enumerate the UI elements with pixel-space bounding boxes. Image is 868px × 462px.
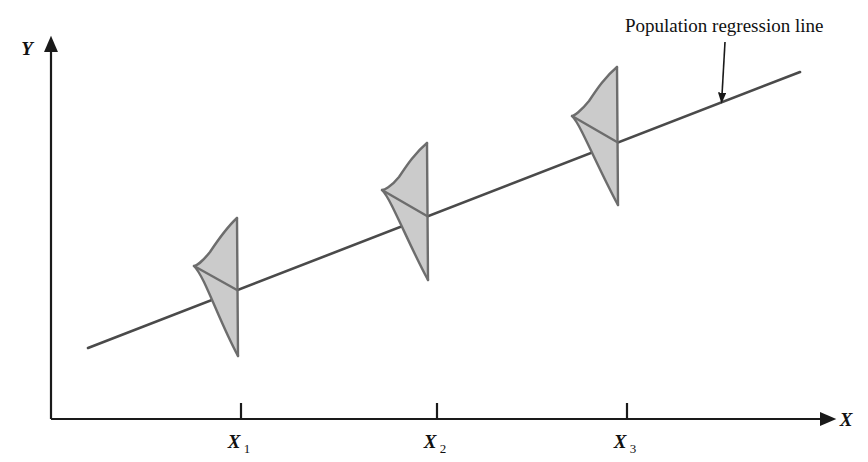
annotation-arrow — [722, 42, 725, 95]
conditional-distribution-x2 — [382, 143, 428, 280]
x-ticks-group: X 1 X 2 X 3 — [227, 403, 637, 456]
population-regression-line — [88, 72, 800, 348]
distribution-axis-line-x2 — [427, 143, 428, 280]
axes-group: Y X — [21, 38, 853, 430]
x-tick-label-2: X — [423, 431, 438, 452]
distribution-axis-line-x3 — [617, 67, 618, 205]
conditional-distribution-x1 — [194, 218, 238, 356]
distribution-shade-x3 — [572, 67, 618, 205]
x-axis-label: X — [839, 409, 854, 430]
x-tick-3: X 3 — [613, 403, 637, 456]
x-tick-subscript-3: 3 — [630, 441, 637, 456]
y-axis-label: Y — [21, 38, 35, 59]
figure-canvas: Y X X 1 X 2 X 3 — [0, 0, 868, 462]
x-tick-1: X 1 — [227, 403, 251, 456]
x-tick-subscript-1: 1 — [244, 441, 251, 456]
conditional-distribution-x3 — [572, 67, 618, 205]
x-tick-2: X 2 — [423, 403, 447, 456]
annotation-label: Population regression line — [625, 15, 823, 36]
distribution-axis-line-x1 — [237, 218, 238, 356]
regression-figure: Y X X 1 X 2 X 3 — [0, 0, 868, 462]
x-tick-label-3: X — [613, 431, 628, 452]
x-tick-subscript-2: 2 — [440, 441, 447, 456]
annotation-group: Population regression line — [625, 15, 823, 95]
x-tick-label-1: X — [227, 431, 242, 452]
